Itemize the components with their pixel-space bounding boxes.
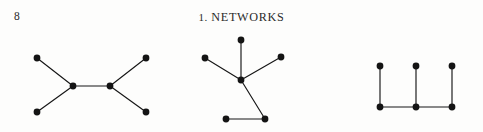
graph-node bbox=[377, 104, 384, 111]
graph-node bbox=[107, 83, 114, 90]
graph-edge bbox=[241, 80, 265, 119]
graph-star-tree bbox=[202, 37, 285, 123]
graph-edge bbox=[110, 58, 146, 86]
graph-node bbox=[449, 104, 456, 111]
graph-node bbox=[223, 116, 230, 123]
graph-h-shape bbox=[34, 55, 150, 116]
graph-edge bbox=[110, 86, 146, 112]
graph-node bbox=[449, 63, 456, 70]
graph-edge bbox=[205, 58, 241, 80]
chapter-running-title: 1. NETWORKS bbox=[0, 10, 483, 25]
graph-node bbox=[143, 55, 150, 62]
running-head: 8 1. NETWORKS bbox=[0, 0, 483, 30]
graph-node bbox=[202, 55, 209, 62]
graph-node bbox=[377, 63, 384, 70]
book-page: 8 1. NETWORKS bbox=[0, 0, 483, 132]
graph-node bbox=[238, 77, 245, 84]
graph-node bbox=[413, 63, 420, 70]
graph-node bbox=[278, 54, 285, 61]
graph-node bbox=[413, 104, 420, 111]
graph-node bbox=[238, 37, 245, 44]
chapter-title: NETWORKS bbox=[211, 10, 284, 24]
figure-row bbox=[0, 28, 483, 132]
graph-node bbox=[262, 116, 269, 123]
graph-edge bbox=[37, 86, 73, 112]
graph-edge bbox=[241, 57, 281, 80]
graph-comb-shape bbox=[377, 63, 456, 111]
graph-node bbox=[143, 109, 150, 116]
graph-edge bbox=[37, 58, 73, 86]
graph-node bbox=[34, 109, 41, 116]
chapter-number: 1. bbox=[198, 11, 207, 23]
graph-node bbox=[34, 55, 41, 62]
graph-node bbox=[70, 83, 77, 90]
graph-figures-canvas bbox=[0, 28, 483, 132]
